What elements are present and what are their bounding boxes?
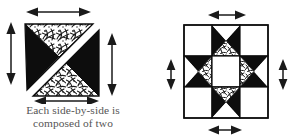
top-width-arrow xyxy=(208,11,246,20)
side-by-side-unit-diagram xyxy=(0,0,146,104)
caption-line-2: composed of two xyxy=(0,117,146,130)
point-unit-top xyxy=(212,25,240,56)
point-unit-right xyxy=(240,56,268,87)
center-plain-square xyxy=(212,56,240,87)
figure-caption: Each side-by-side is composed of two xyxy=(0,104,146,129)
eight-pointed-star-block-diagram xyxy=(146,0,292,136)
right-height-arrow xyxy=(279,59,288,90)
top-width-arrow xyxy=(26,7,91,16)
side-by-side-unit-svg xyxy=(0,0,146,104)
star-block-svg xyxy=(146,0,292,136)
bottom-width-arrow xyxy=(34,96,99,104)
corner-plain-bottom-right xyxy=(240,87,268,118)
caption-line-1: Each side-by-side is xyxy=(0,104,146,117)
corner-plain-top-left xyxy=(184,25,212,56)
corner-plain-bottom-left xyxy=(184,87,212,118)
left-height-arrow xyxy=(167,59,176,90)
point-unit-left xyxy=(184,56,212,87)
star-block-body xyxy=(184,25,268,118)
left-height-arrow xyxy=(6,22,15,85)
right-height-arrow xyxy=(107,33,116,96)
diagram-page: Each side-by-side is composed of two xyxy=(0,0,292,136)
corner-plain-top-right xyxy=(240,25,268,56)
point-unit-bottom xyxy=(212,87,240,118)
bottom-width-arrow xyxy=(208,126,242,135)
